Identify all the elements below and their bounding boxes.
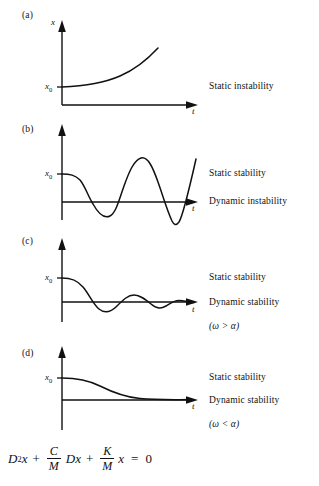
panel-d-curve	[62, 378, 190, 400]
panel-c-condition: (ω > α)	[209, 321, 239, 331]
panel-d-plot	[0, 334, 319, 442]
panel-d-condition: (ω < α)	[209, 419, 239, 429]
panel-c: (c) x0 t Static stability Dynamic stabil…	[0, 222, 319, 334]
panel-d-y-axis-arrow-icon	[58, 346, 66, 358]
panel-a-y-axis-arrow-icon	[58, 20, 66, 32]
governing-equation: D2x + C M Dx + K M x = 0	[8, 445, 152, 472]
panel-d-caption-1: Static stability	[209, 372, 266, 382]
equation-fraction-c-over-m: C M	[47, 445, 61, 472]
panel-a: (a) x x0 t	[0, 0, 319, 112]
equation-fraction-k-over-m: K M	[100, 445, 114, 472]
panel-a-curve	[62, 48, 158, 87]
panel-b-caption-1: Static stability	[209, 168, 266, 178]
panel-b-x-axis-arrow-icon	[186, 198, 198, 206]
panel-c-plot	[0, 222, 319, 334]
equation-equals-sign: =	[131, 451, 138, 467]
equation-term3: x	[118, 451, 124, 467]
equation-plus-2: +	[86, 451, 93, 467]
equation-frac1-numerator: C	[48, 445, 60, 458]
panel-c-y-axis-arrow-icon	[58, 238, 66, 250]
panel-c-curve	[62, 278, 194, 312]
panel-a-x-axis-arrow-icon	[186, 101, 198, 109]
panel-b-curve	[62, 158, 196, 225]
panel-b-y-axis-arrow-icon	[58, 124, 66, 136]
panel-a-caption-1: Static instability	[209, 81, 274, 91]
panel-a-plot	[0, 0, 319, 112]
panel-c-caption-1: Static stability	[209, 272, 266, 282]
panel-d: (d) x0 t Static stability Dynamic stabil…	[0, 334, 319, 442]
panel-b-caption-2: Dynamic instability	[209, 196, 287, 206]
figure-root: (a) x x0 t (b) x0 t	[0, 0, 319, 486]
equation-frac2-denominator: M	[100, 459, 114, 472]
equation-term2: Dx	[66, 451, 81, 467]
panel-c-caption-2: Dynamic stability	[209, 297, 279, 307]
equation-frac2-numerator: K	[101, 445, 113, 458]
panel-d-caption-2: Dynamic stability	[209, 395, 279, 405]
equation-frac1-denominator: M	[47, 459, 61, 472]
equation-plus-1: +	[32, 451, 39, 467]
panel-b: (b) x0 t Static stability Dynamic instab…	[0, 112, 319, 222]
equation-right-hand-side: 0	[145, 451, 152, 467]
equation-term1-var: D	[8, 451, 17, 467]
equation-term1-x: x	[22, 451, 28, 467]
